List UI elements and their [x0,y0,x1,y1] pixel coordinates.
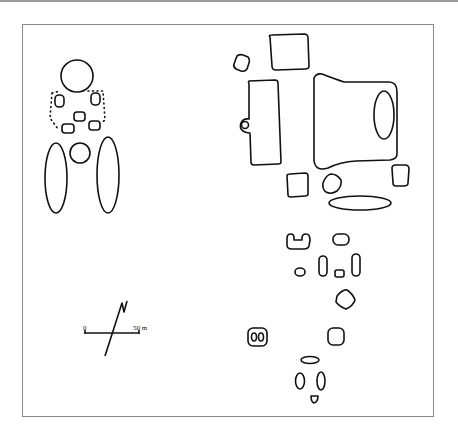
dotted-enclosure [50,91,105,129]
long-oval-horizontal [329,196,391,210]
small-square-nw [234,55,250,72]
inner-oval-b [259,333,264,341]
small-oval-right [91,93,100,105]
north-arrow-icon [105,301,127,356]
vertical-oval-b [352,254,360,276]
small-oval-left [55,95,64,107]
large-plaza-with-oval [314,74,397,169]
large-circle-feature [61,60,93,92]
vertical-oval-c [296,373,305,389]
u-shaped-feature [287,234,310,249]
rounded-diamond [323,174,341,193]
long-oval-left [45,143,67,213]
inner-oval [374,91,394,139]
vertical-oval-a [319,256,327,276]
small-rounded [295,268,305,276]
square-mid-left [287,173,308,197]
tiny-square [335,270,344,277]
tiny-shield [311,396,318,403]
west-group [45,60,119,213]
medium-circle-feature [70,143,90,163]
east-group [234,34,409,403]
square-lower [328,328,344,345]
scale-end-label: 50 m [133,324,148,332]
flat-oval [301,357,319,364]
scale-start-label: 0 [83,324,87,332]
square-mid-right [392,165,409,186]
small-square-left [62,124,74,133]
inner-oval-a [252,333,257,341]
small-oval-top [333,234,349,245]
small-square-top [74,112,85,121]
long-oval-right [97,137,119,213]
site-plan: 0 50 m [0,0,458,438]
vertical-oval-d [317,372,325,390]
small-square-right [89,121,100,130]
square-top [269,34,309,70]
rotated-square [336,290,355,309]
annex-circle [242,122,249,129]
